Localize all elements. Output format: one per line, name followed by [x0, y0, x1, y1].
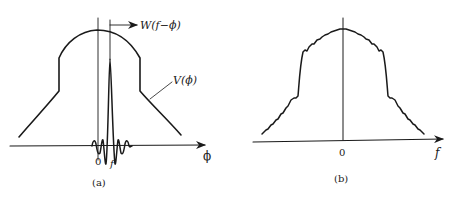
v-phi-leader [150, 82, 172, 99]
caption-a: (a) [92, 177, 106, 188]
phi-axis-label: ϕ [203, 149, 211, 163]
panel-b: f 0 (b) [253, 18, 443, 184]
v-phi-curve [19, 30, 181, 137]
tick-zero-b: 0 [339, 147, 345, 158]
figure: ϕ W(f−ϕ) V(ϕ) 0 f (a) f 0 (b) [0, 0, 454, 200]
tick-zero-a: 0 [95, 156, 101, 167]
caption-b: (b) [334, 173, 348, 184]
v-phi-label: V(ϕ) [173, 74, 197, 87]
window-label: W(f−ϕ) [140, 19, 181, 32]
panel-a: ϕ W(f−ϕ) V(ϕ) 0 f (a) [10, 18, 211, 188]
f-axis-label: f [434, 146, 442, 160]
f-axis [253, 139, 443, 142]
